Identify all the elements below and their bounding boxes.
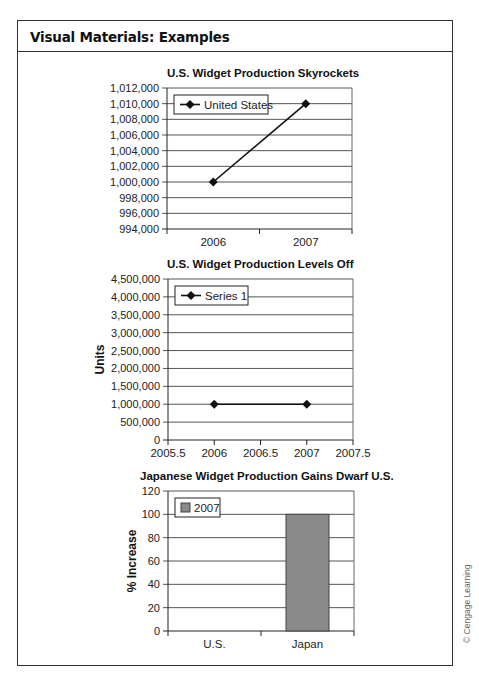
svg-text:2007: 2007 xyxy=(194,502,220,514)
chart3-ytick-label: 60 xyxy=(148,555,160,567)
chart3-xtick-label: U.S. xyxy=(203,638,225,650)
chart3-ytick-label: 0 xyxy=(154,625,160,637)
chart3-legend-swatch-icon xyxy=(181,503,190,512)
chart3-ytick-label: 120 xyxy=(142,485,160,497)
chart3: 120100806040200U.S.Japan2007% Increase xyxy=(0,0,479,684)
chart3-ytick-label: 100 xyxy=(142,508,160,520)
chart3-ytick-label: 20 xyxy=(148,602,160,614)
copyright-credit: © Cengage Learning xyxy=(462,564,472,643)
chart3-ylabel: % Increase xyxy=(125,529,139,592)
chart3-ytick-label: 80 xyxy=(148,532,160,544)
chart3-ytick-label: 40 xyxy=(148,578,160,590)
chart3-xtick-label: Japan xyxy=(292,638,323,650)
chart3-bar xyxy=(286,514,329,631)
